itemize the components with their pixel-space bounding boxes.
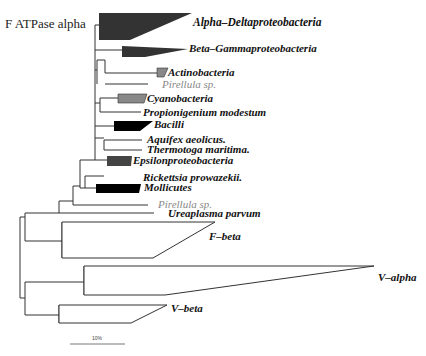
phylogenetic-tree-figure: F ATPase alpha — [0, 0, 426, 356]
label-epsilon: Epsilonproteobacteria — [132, 154, 234, 166]
label-bacilli: Bacilli — [153, 118, 185, 130]
clade-mollicutes — [96, 184, 141, 193]
clade-actinobacteria — [157, 68, 168, 77]
clade-cyanobacteria — [118, 94, 147, 103]
clade-shapes — [59, 13, 374, 323]
label-propionigenium: Propionigenium modestum — [143, 106, 267, 118]
clade-v-alpha — [84, 266, 374, 295]
clade-f-beta — [62, 222, 215, 258]
label-actinobacteria: Actinobacteria — [167, 66, 235, 78]
figure-title: F ATPase alpha — [5, 16, 86, 31]
clade-beta-gamma — [122, 46, 188, 57]
label-v-beta: V–beta — [171, 302, 203, 314]
scale-bar-label: 10% — [92, 335, 103, 341]
clade-bacilli — [114, 121, 153, 131]
scale-bar: 10% — [70, 335, 125, 344]
clade-v-beta — [59, 305, 167, 323]
label-beta-gamma: Beta–Gammaproteobacteria — [188, 42, 317, 54]
clade-alpha-delta — [99, 13, 192, 40]
label-f-beta: F–beta — [208, 230, 241, 242]
label-ureaplasma: Ureaplasma parvum — [168, 207, 261, 219]
tree-svg: F ATPase alpha — [0, 0, 426, 356]
label-pirellula-1: Pirellula sp. — [161, 78, 216, 90]
label-alpha-delta: Alpha–Deltaproteobacteria — [192, 16, 322, 29]
label-mollicutes: Mollicutes — [143, 181, 192, 193]
label-cyanobacteria: Cyanobacteria — [147, 92, 213, 104]
clade-epsilon — [107, 156, 132, 166]
label-v-alpha: V–alpha — [378, 271, 417, 283]
